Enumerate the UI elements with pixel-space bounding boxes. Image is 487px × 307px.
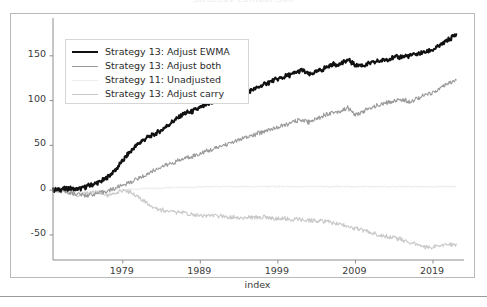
- figure-frame: Strategy 13: Adjust EWMA Strategy 13: Ad…: [10, 13, 475, 278]
- legend-swatch-adjust-both: [72, 66, 98, 67]
- legend-label-unadjusted: Strategy 11: Unadjusted: [105, 73, 221, 87]
- legend-item: Strategy 13: Adjust carry: [72, 87, 242, 101]
- y-tick-label: 50: [34, 137, 46, 148]
- legend-item: Strategy 13: Adjust both: [72, 59, 242, 73]
- y-tick-label: 100: [28, 93, 46, 104]
- legend-item: Strategy 11: Unadjusted: [72, 73, 242, 87]
- legend-label-adjust-both: Strategy 13: Adjust both: [105, 59, 221, 73]
- chart-screenshot: Strategy comparison Strategy 13: Adjust …: [0, 0, 487, 307]
- x-tick-label: 1999: [252, 265, 302, 276]
- x-tick-label: 1989: [174, 265, 224, 276]
- x-tick-label: 2019: [407, 265, 457, 276]
- legend-label-adjust-ewma: Strategy 13: Adjust EWMA: [105, 45, 230, 59]
- x-tick-label: 2009: [329, 265, 379, 276]
- y-tick-label: 150: [28, 48, 46, 59]
- series-line: [53, 188, 456, 249]
- legend-item: Strategy 13: Adjust EWMA: [72, 45, 242, 59]
- legend-swatch-adjust-ewma: [72, 51, 98, 53]
- y-tick-label: 0: [40, 182, 46, 193]
- legend-swatch-adjust-carry: [72, 94, 98, 95]
- page-divider: [0, 296, 487, 297]
- figure-title: Strategy comparison: [0, 0, 487, 2]
- legend-swatch-unadjusted: [72, 80, 98, 81]
- x-tick-label: 1979: [97, 265, 147, 276]
- chart-legend: Strategy 13: Adjust EWMA Strategy 13: Ad…: [65, 39, 249, 104]
- x-axis-label: index: [52, 279, 463, 290]
- y-tick-label: -50: [30, 227, 46, 238]
- legend-label-adjust-carry: Strategy 13: Adjust carry: [105, 87, 224, 101]
